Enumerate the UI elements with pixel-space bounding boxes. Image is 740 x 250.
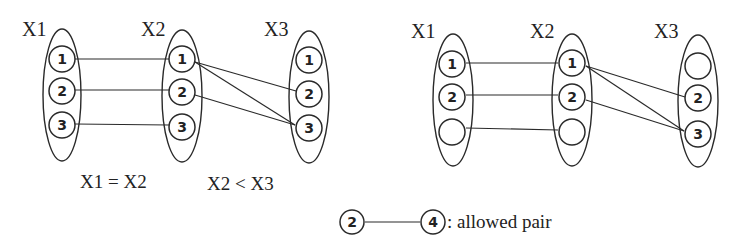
variable-x2: X2 1 2 <box>530 20 592 166</box>
variable-label: X3 <box>264 18 288 40</box>
variable-label: X2 <box>141 18 165 40</box>
value-label: 2 <box>177 84 187 100</box>
value-label: 3 <box>57 117 67 133</box>
variable-x1: X1 1 2 <box>411 20 473 166</box>
left-diagram: X1 1 2 3 X2 1 2 3 X3 1 2 <box>22 18 329 194</box>
value-label: 1 <box>304 52 314 68</box>
variable-label: X3 <box>654 20 678 42</box>
value-label: 1 <box>447 56 457 72</box>
value-label: 1 <box>177 51 187 67</box>
legend: 2 4 : allowed pair <box>340 210 552 234</box>
value-label: 2 <box>567 89 577 105</box>
value-label: 2 <box>693 90 703 106</box>
edge-x1-3-x2-3 <box>75 124 169 125</box>
edge-x2-1-x3-3 <box>195 62 295 125</box>
variable-x3: X3 1 2 3 <box>264 18 329 163</box>
value-node-empty <box>439 119 465 145</box>
value-label: 1 <box>567 55 577 71</box>
edge-x2-1-x3-3 <box>586 66 684 131</box>
variable-x3: X3 2 3 <box>654 20 718 167</box>
variable-label: X1 <box>22 18 46 40</box>
variable-label: X1 <box>411 20 435 42</box>
right-diagram: X1 1 2 X2 1 2 X3 2 <box>411 20 718 167</box>
edge-x2-2-x3-3 <box>195 95 295 125</box>
constraint-label-x2-lt-x3: X2 < X3 <box>207 173 274 194</box>
value-label: 3 <box>177 119 187 135</box>
legend-text: : allowed pair <box>447 211 552 232</box>
variable-x1: X1 1 2 3 <box>22 18 81 161</box>
value-label: 2 <box>304 86 314 102</box>
value-label: 3 <box>304 120 314 136</box>
value-label: 3 <box>693 126 703 142</box>
value-label: 2 <box>57 83 67 99</box>
legend-node-left-label: 2 <box>347 214 357 230</box>
edge-x2-1-x3-2 <box>586 66 685 97</box>
edge-x2-2-x3-3 <box>586 100 684 131</box>
value-node-empty <box>685 53 711 79</box>
value-label: 1 <box>57 51 67 67</box>
value-label: 2 <box>447 89 457 105</box>
variable-label: X2 <box>530 20 554 42</box>
edge-x2-1-x3-2 <box>195 62 296 91</box>
edge-x1-3-x2-3 <box>466 128 558 130</box>
legend-node-right-label: 4 <box>428 214 438 230</box>
constraint-label-x1-eq-x2: X1 = X2 <box>80 171 147 192</box>
value-node-empty <box>559 119 585 145</box>
constraint-diagram: X1 1 2 3 X2 1 2 3 X3 1 2 <box>0 0 740 250</box>
